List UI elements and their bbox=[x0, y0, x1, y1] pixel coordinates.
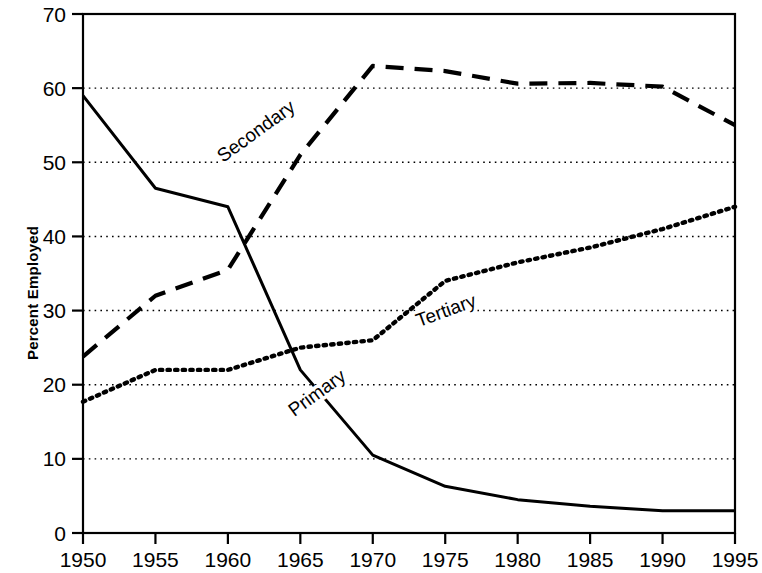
series-label-primary-group: PrimaryPrimary bbox=[284, 365, 350, 421]
y-tick-label-20: 20 bbox=[43, 373, 66, 396]
series-line-primary bbox=[83, 96, 735, 511]
x-tick-label-1985: 1985 bbox=[567, 548, 614, 571]
x-axis-ticks bbox=[83, 533, 735, 544]
series-label-secondary: Secondary bbox=[213, 96, 299, 167]
y-tick-label-40: 40 bbox=[43, 225, 66, 248]
series-label-tertiary-group: TertiaryTertiary bbox=[413, 290, 479, 331]
x-tick-label-1970: 1970 bbox=[349, 548, 396, 571]
series-lines bbox=[83, 66, 735, 511]
x-tick-label-1975: 1975 bbox=[422, 548, 469, 571]
y-tick-label-50: 50 bbox=[43, 151, 66, 174]
series-inline-labels: PrimaryPrimarySecondarySecondaryTertiary… bbox=[213, 96, 479, 421]
series-label-primary: Primary bbox=[284, 365, 350, 421]
employment-share-line-chart: 010203040506070 195019551960196519701975… bbox=[0, 0, 762, 573]
y-tick-label-10: 10 bbox=[43, 447, 66, 470]
y-tick-label-0: 0 bbox=[54, 522, 66, 545]
x-tick-label-1965: 1965 bbox=[277, 548, 324, 571]
y-axis-ticks bbox=[72, 14, 83, 533]
y-tick-label-70: 70 bbox=[43, 3, 66, 26]
series-label-secondary-group: SecondarySecondary bbox=[213, 96, 299, 167]
series-label-tertiary: Tertiary bbox=[413, 290, 479, 331]
plot-border bbox=[83, 14, 735, 533]
x-axis-tick-labels: 1950195519601965197019751980198519901995 bbox=[60, 548, 759, 571]
x-tick-label-1960: 1960 bbox=[205, 548, 252, 571]
plot-frame bbox=[83, 14, 735, 533]
x-tick-label-1950: 1950 bbox=[60, 548, 107, 571]
y-tick-label-60: 60 bbox=[43, 77, 66, 100]
x-tick-label-1980: 1980 bbox=[494, 548, 541, 571]
y-tick-label-30: 30 bbox=[43, 299, 66, 322]
x-tick-label-1995: 1995 bbox=[712, 548, 759, 571]
x-tick-label-1990: 1990 bbox=[639, 548, 686, 571]
y-axis-tick-labels: 010203040506070 bbox=[43, 3, 66, 545]
chart-figure: Percent Employed 010203040506070 1950195… bbox=[0, 0, 762, 573]
x-tick-label-1955: 1955 bbox=[132, 548, 179, 571]
